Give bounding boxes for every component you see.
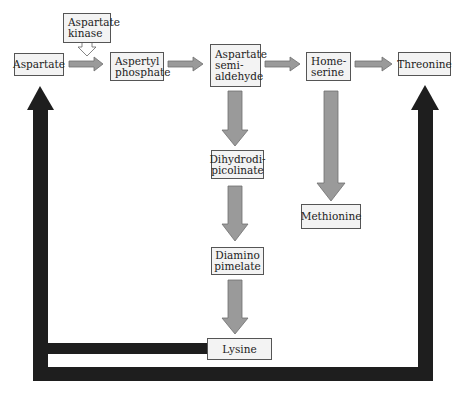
arrow-down-1 (222, 91, 248, 146)
node-label: Aspertyl phosphate (115, 56, 170, 78)
node-label: Lysine (222, 344, 256, 355)
right-feedback-shaft (418, 108, 433, 381)
bottom-feedback-bar (33, 367, 433, 381)
node-lysine: Lysine (207, 338, 272, 360)
node-methionine: Methionine (301, 204, 361, 229)
arrow-right-4 (355, 57, 392, 71)
node-label: Home- serine (311, 56, 346, 78)
node-label: Threonine (397, 59, 451, 70)
node-label: Diamino pimelate (214, 250, 260, 272)
arrow-down-2 (222, 186, 248, 241)
arrow-down-3 (222, 280, 248, 334)
node-label: Aspartate (13, 59, 65, 70)
node-label: Aspartate semi- aldehyde (215, 49, 267, 82)
node-threonine: Threonine (398, 52, 451, 76)
node-aspertyl-phosphate: Aspertyl phosphate (110, 52, 164, 81)
left-feedback-shaft (33, 108, 48, 381)
node-aspartate: Aspartate (14, 53, 64, 76)
arrow-down-methionine (317, 91, 345, 201)
node-label: Dihydrodi- picolinate (209, 154, 265, 176)
node-diaminopimelate: Diamino pimelate (211, 247, 264, 275)
node-aspartate-kinase: Aspartate kinase (63, 13, 111, 43)
node-homeserine: Home- serine (306, 52, 351, 81)
node-dihydrodipicolinate: Dihydrodi- picolinate (211, 150, 264, 179)
node-label: Methionine (301, 211, 362, 222)
arrow-right-1 (69, 57, 103, 71)
arrow-right-2 (168, 57, 203, 71)
pathway-arrows (69, 57, 392, 334)
right-feedback-arrowhead (411, 85, 439, 110)
left-feedback-arrowhead (27, 86, 54, 110)
arrow-right-3 (265, 57, 300, 71)
node-aspartate-semialdehyde: Aspartate semi- aldehyde (210, 44, 261, 87)
node-label: Aspartate kinase (68, 17, 120, 39)
kinase-arrow (78, 42, 96, 56)
lysine-feedback-bar (48, 343, 208, 354)
